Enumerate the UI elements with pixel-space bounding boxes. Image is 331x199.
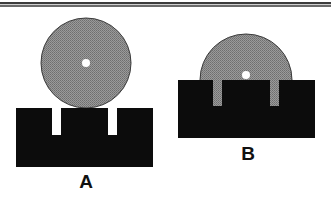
slot-a-left [52, 108, 61, 135]
block-b [178, 80, 315, 138]
slot-b-right [270, 80, 279, 106]
diagram-canvas [0, 0, 331, 199]
slot-b-left [213, 80, 222, 106]
label-b: B [241, 144, 255, 163]
block-a [16, 108, 153, 167]
label-a: A [79, 172, 93, 191]
panel-b [178, 34, 315, 138]
panel-a [16, 18, 153, 167]
disc-a-hole [82, 59, 90, 67]
top-double-rule [0, 2, 331, 7]
disc-b-hole [242, 71, 250, 79]
slot-a-right [108, 108, 117, 135]
